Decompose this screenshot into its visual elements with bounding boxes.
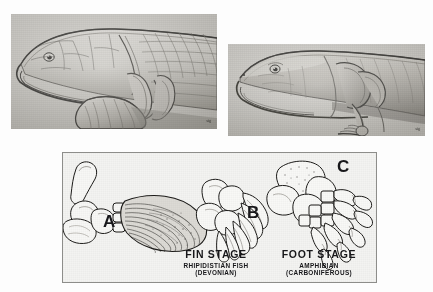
fin-stage-caption-title: FIN STAGE — [156, 249, 276, 261]
fin-stage-caption-era: (DEVONIAN) — [156, 269, 276, 276]
artist-signature: sig — [206, 118, 210, 123]
fish-artwork — [11, 14, 217, 129]
stage-letter-c: C — [337, 158, 349, 175]
artist-signature: sig — [415, 126, 419, 131]
amphibian-artwork — [228, 44, 425, 136]
foot-stage-caption-subtitle: AMPHIBIAN — [259, 262, 377, 269]
limb-evolution-diagram: A B C FIN STAGE RHIPIDISTIAN FISH (DEVON… — [62, 152, 377, 283]
fin-stage-caption-subtitle: RHIPIDISTIAN FISH — [156, 262, 276, 269]
rhipidistian-fish-illustration: sig — [11, 14, 217, 129]
foot-stage-caption: FOOT STAGE AMPHIBIAN (CARBONIFEROUS) — [259, 249, 377, 276]
stage-letter-a: A — [103, 213, 115, 230]
fin-stage-caption: FIN STAGE RHIPIDISTIAN FISH (DEVONIAN) — [156, 249, 276, 276]
foot-stage-caption-title: FOOT STAGE — [259, 249, 377, 261]
foot-stage-caption-era: (CARBONIFEROUS) — [259, 269, 377, 276]
stage-letter-b: B — [247, 204, 259, 221]
figure-plate: sig — [0, 0, 433, 292]
early-amphibian-illustration: sig — [228, 44, 425, 136]
